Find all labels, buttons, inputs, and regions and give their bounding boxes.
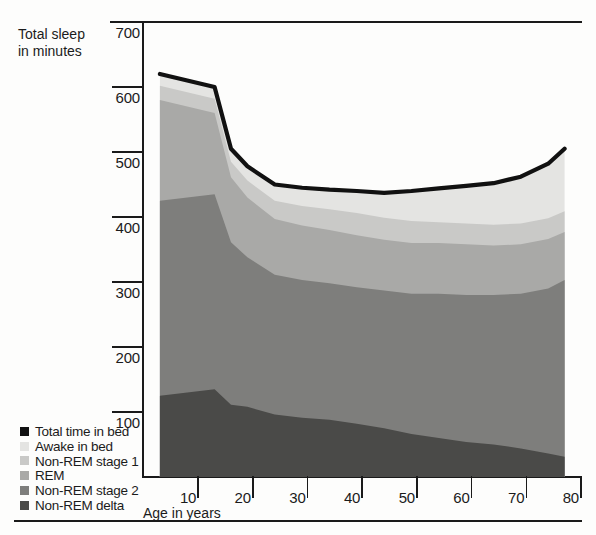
x-tick-30 xyxy=(307,476,309,498)
y-axis-line xyxy=(142,21,144,478)
y-tick-label-400: 400 xyxy=(106,219,140,236)
total-time-in-bed-line xyxy=(160,74,565,193)
x-tick-80 xyxy=(580,476,582,498)
legend-item-non-rem-delta[interactable]: Non-REM delta xyxy=(20,498,150,513)
x-tick-label-20: 20 xyxy=(219,489,251,506)
area-band-non-rem-stage-1 xyxy=(160,86,565,477)
legend-label: Awake in bed xyxy=(35,439,113,454)
legend-swatch-icon xyxy=(20,427,29,436)
area-band-non-rem-delta xyxy=(160,389,565,477)
chart-page: Total sleep in minutes 10020030040050060… xyxy=(0,0,596,535)
legend-label: Non-REM delta xyxy=(35,498,124,513)
legend-label: Non-REM stage 2 xyxy=(35,483,139,498)
legend-swatch-icon xyxy=(20,442,29,451)
bottom-rule xyxy=(14,520,582,522)
y-tick-label-600: 600 xyxy=(106,89,140,106)
area-band-rem xyxy=(160,100,565,477)
x-tick-label-70: 70 xyxy=(492,489,524,506)
legend-label: REM xyxy=(35,468,64,483)
area-band-awake-in-bed xyxy=(160,74,565,477)
x-tick-label-30: 30 xyxy=(274,489,306,506)
area-bands xyxy=(160,74,565,477)
legend-item-non-rem-stage-2[interactable]: Non-REM stage 2 xyxy=(20,483,150,498)
legend-label: Non-REM stage 1 xyxy=(35,454,139,469)
x-tick-50 xyxy=(416,476,418,498)
legend-item-total-time-in-bed[interactable]: Total time in bed xyxy=(20,424,150,439)
legend-item-rem[interactable]: REM xyxy=(20,468,150,483)
legend-swatch-icon xyxy=(20,486,29,495)
y-axis-title: Total sleep in minutes xyxy=(18,26,106,60)
x-tick-70 xyxy=(526,476,528,498)
legend-item-awake-in-bed[interactable]: Awake in bed xyxy=(20,439,150,454)
x-tick-60 xyxy=(471,476,473,498)
y-tick-label-500: 500 xyxy=(106,154,140,171)
x-tick-label-40: 40 xyxy=(328,489,360,506)
x-tick-10 xyxy=(197,476,199,498)
x-tick-label-50: 50 xyxy=(383,489,415,506)
legend-swatch-icon xyxy=(20,501,29,510)
legend-label: Total time in bed xyxy=(35,424,129,439)
x-axis-title: Age in years xyxy=(143,505,221,521)
y-tick-label-200: 200 xyxy=(106,349,140,366)
x-tick-label-10: 10 xyxy=(164,489,196,506)
y-tick-label-700: 700 xyxy=(106,24,140,41)
legend-swatch-icon xyxy=(20,471,29,480)
y-tick-label-300: 300 xyxy=(106,284,140,301)
legend: Total time in bedAwake in bedNon-REM sta… xyxy=(20,424,150,513)
x-tick-40 xyxy=(361,476,363,498)
x-tick-label-60: 60 xyxy=(438,489,470,506)
top-rule xyxy=(110,21,582,23)
x-tick-label-80: 80 xyxy=(547,489,579,506)
legend-swatch-icon xyxy=(20,456,29,465)
area-band-non-rem-stage-2 xyxy=(160,194,565,477)
x-tick-20 xyxy=(252,476,254,498)
legend-item-non-rem-stage-1[interactable]: Non-REM stage 1 xyxy=(20,454,150,469)
